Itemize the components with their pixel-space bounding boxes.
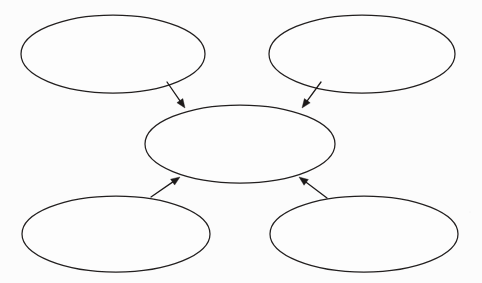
node-top-left[interactable] (21, 15, 205, 93)
node-bottom-right[interactable] (270, 196, 458, 272)
concept-map-diagram (0, 0, 482, 283)
node-top-right-shape[interactable] (269, 15, 455, 93)
node-center-shape[interactable] (145, 105, 335, 183)
node-top-right[interactable] (269, 15, 455, 93)
node-center[interactable] (145, 105, 335, 183)
node-bottom-left[interactable] (22, 196, 210, 272)
diagram-canvas (0, 0, 482, 283)
node-bottom-right-shape[interactable] (270, 196, 458, 272)
node-bottom-left-shape[interactable] (22, 196, 210, 272)
node-top-left-shape[interactable] (21, 15, 205, 93)
